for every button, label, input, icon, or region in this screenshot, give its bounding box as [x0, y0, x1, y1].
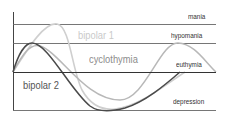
hypomania-label: hypomania	[171, 32, 202, 40]
mood-spectrum-diagram: mania hypomania euthymia depression bipo…	[0, 0, 229, 117]
bipolar1-label: bipolar 1	[78, 30, 114, 41]
mania-label: mania	[188, 13, 205, 21]
cyclothymia-label: cyclothymia	[89, 54, 138, 65]
cyclothymia-curve	[13, 43, 216, 100]
bipolar2-label: bipolar 2	[23, 80, 59, 91]
euthymia-label: euthymia	[176, 61, 202, 69]
depression-label: depression	[173, 98, 204, 106]
